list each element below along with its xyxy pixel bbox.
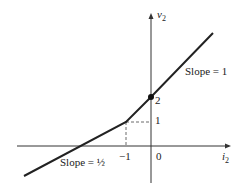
x-axis-label: i2 xyxy=(222,150,229,165)
x-axis-arrow-icon xyxy=(225,144,231,149)
slope-upper-label: Slope = 1 xyxy=(185,65,227,77)
tick-y-2: 2 xyxy=(155,94,161,106)
intercept-dot xyxy=(148,94,154,100)
tick-y-1: 1 xyxy=(155,114,161,126)
tick-x-neg1: −1 xyxy=(119,150,131,162)
chart: v2 i2 −1 0 1 2 Slope = 1 Slope = ½ xyxy=(0,0,243,187)
y-axis-arrow-icon xyxy=(149,13,154,19)
slope-lower-label: Slope = ½ xyxy=(60,156,105,168)
y-axis-label: v2 xyxy=(157,8,166,23)
tick-x-0: 0 xyxy=(156,150,162,162)
